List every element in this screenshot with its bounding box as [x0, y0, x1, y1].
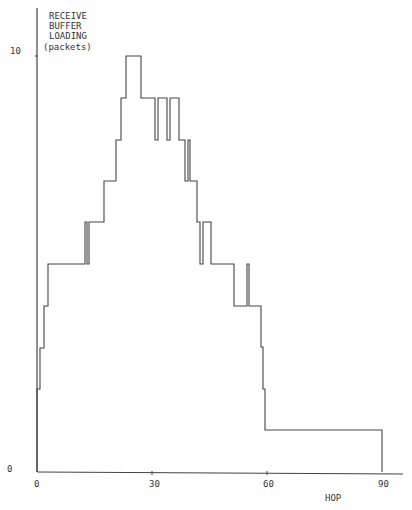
y-tick-label-10: 10	[10, 46, 21, 56]
x-axis	[37, 472, 403, 474]
x-tick-label-30: 30	[149, 479, 160, 489]
buffer-loading-step-line	[37, 56, 382, 472]
x-tick-label-90: 90	[378, 479, 389, 489]
x-tick-label-60: 60	[263, 479, 274, 489]
y-axis-title-line3: LOADING	[49, 31, 87, 41]
x-tick-label-0: 0	[34, 479, 39, 489]
buffer-loading-chart: RECEIVE BUFFER LOADING (packets) 10 0 0 …	[0, 0, 412, 510]
x-axis-title: HOP	[325, 493, 342, 503]
y-axis-title-line1: RECEIVE	[49, 11, 87, 21]
y-tick-label-0: 0	[7, 464, 12, 474]
y-axis-title-line4: (packets)	[43, 42, 92, 52]
y-axis-title-line2: BUFFER	[49, 21, 82, 31]
